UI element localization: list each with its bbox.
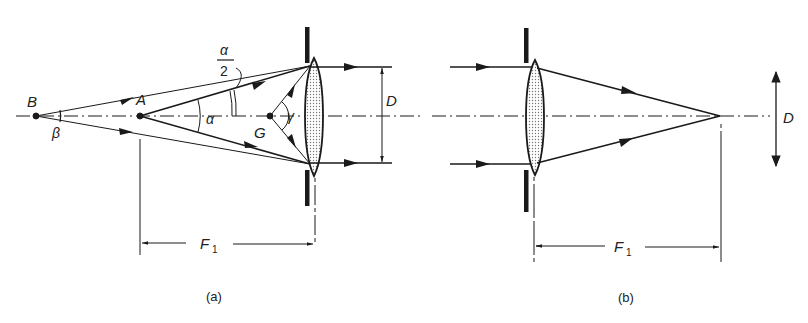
aperture-stop-bottom — [305, 170, 310, 206]
angle-beta-arc — [60, 110, 61, 122]
arrow-head — [619, 138, 633, 147]
label-d-a: D — [386, 92, 397, 109]
lens-a — [305, 58, 323, 176]
label-f1-b: F — [614, 238, 624, 255]
label-d-b: D — [783, 109, 794, 126]
aperture-stop-top-b — [524, 28, 529, 63]
label-alpha: α — [206, 111, 215, 127]
panel-b — [432, 28, 776, 262]
angle-alpha-half-arc — [230, 91, 232, 116]
point-g — [267, 113, 273, 119]
label-gamma: γ — [287, 108, 295, 124]
ray-a-bottom — [140, 116, 310, 164]
arrow-head — [287, 134, 296, 148]
panel-a — [16, 27, 420, 255]
label-alpha-half-den: 2 — [220, 63, 228, 79]
caption-b: (b) — [618, 290, 634, 305]
label-f1-a: F — [200, 235, 210, 252]
arrow-head — [287, 84, 295, 98]
arrow-head — [244, 141, 258, 148]
arrow-head — [120, 97, 134, 105]
ray-b-top — [36, 66, 310, 116]
lens-b — [526, 60, 544, 175]
arrow-head — [344, 63, 358, 71]
aperture-stop-bottom-b — [524, 170, 529, 212]
arrow-head — [119, 128, 133, 135]
aperture-stop-top — [305, 27, 310, 63]
caption-a: (a) — [206, 289, 222, 304]
arrow-head — [621, 86, 636, 94]
angle-alpha-arc — [198, 100, 200, 132]
label-a: A — [135, 91, 146, 108]
label-beta: β — [51, 125, 60, 141]
label-alpha-half-num: α — [220, 42, 229, 58]
label-b: B — [27, 93, 37, 110]
arrow-head — [476, 160, 490, 168]
alpha-half-leader — [236, 68, 241, 88]
ray-b-bottom — [36, 116, 310, 164]
arrow-head — [344, 159, 358, 167]
label-f1-b-sub: 1 — [626, 247, 632, 258]
angle-alpha-half-arc-2 — [234, 90, 236, 116]
label-f1-a-sub: 1 — [212, 244, 218, 255]
point-a — [137, 113, 143, 119]
arrow-head — [476, 63, 490, 71]
point-b — [33, 113, 39, 119]
optics-diagram: B A G β α α 2 γ D F 1 (a) — [0, 0, 808, 323]
label-g: G — [254, 124, 266, 141]
